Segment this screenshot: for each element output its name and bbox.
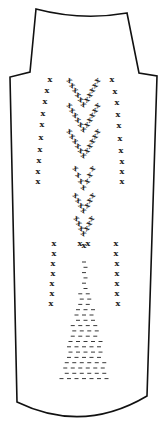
x-stitch-mark: x xyxy=(113,86,118,96)
x-stitch-mark: x xyxy=(52,238,57,248)
x-stitch-mark: x xyxy=(51,258,56,268)
x-stitch-mark: x xyxy=(52,248,57,258)
x-stitch-mark: x xyxy=(116,298,121,308)
x-stitch-mark: x xyxy=(115,288,120,298)
x-stitch-mark: x xyxy=(78,238,83,248)
x-stitch-mark: x xyxy=(36,166,41,176)
dash-fill-area xyxy=(60,262,109,379)
stitch-marks: xxxxxxxxxxxxxxxxxxxxxxxxxxxxxxxxxxxxxxxx… xyxy=(36,74,125,308)
x-stitch-mark: x xyxy=(50,288,55,298)
x-stitch-mark: x xyxy=(114,238,119,248)
x-stitch-mark: x xyxy=(51,268,56,278)
x-stitch-mark: x xyxy=(115,268,120,278)
x-stitch-mark: x xyxy=(110,74,115,84)
x-stitch-mark: x xyxy=(116,109,121,119)
x-stitch-mark: x xyxy=(120,176,125,186)
garment-panel-diagram: xxxxxxxxxxxxxxxxxxxxxxxxxxxxxxxxxxxxxxxx… xyxy=(0,0,167,426)
x-stitch-mark: x xyxy=(39,132,44,142)
x-stitch-mark: x xyxy=(114,248,119,258)
x-stitch-mark: x xyxy=(119,145,124,155)
x-stitch-mark: x xyxy=(115,258,120,268)
x-stitch-mark: x xyxy=(40,119,45,129)
x-stitch-mark: x xyxy=(118,133,123,143)
x-stitch-mark: x xyxy=(49,298,54,308)
x-stitch-mark: x xyxy=(115,278,120,288)
x-stitch-mark: x xyxy=(86,238,91,248)
x-stitch-mark: x xyxy=(120,166,125,176)
x-stitch-mark: x xyxy=(36,176,41,186)
x-stitch-mark: x xyxy=(48,74,53,84)
x-stitch-mark: x xyxy=(41,108,46,118)
x-stitch-mark: x xyxy=(50,278,55,288)
x-stitch-mark: x xyxy=(37,155,42,165)
x-stitch-mark: x xyxy=(117,120,122,130)
x-stitch-mark: x xyxy=(115,97,120,107)
x-stitch-mark: x xyxy=(120,156,125,166)
x-stitch-mark: x xyxy=(38,144,43,154)
x-stitch-mark: x xyxy=(43,96,48,106)
x-stitch-mark: x xyxy=(45,85,50,95)
